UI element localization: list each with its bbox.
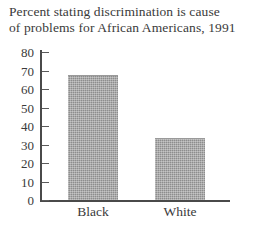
y-tick-label: 30 [21,138,34,151]
x-axis-line [40,200,230,202]
y-tick-mark [42,52,49,53]
y-tick-label: 70 [21,64,34,77]
bar [68,75,118,200]
y-tick-mark [42,126,49,127]
y-tick-mark [42,145,49,146]
chart-title: Percent stating discrimination is cause … [9,4,271,36]
y-tick-label: 20 [21,157,34,170]
y-tick-mark [42,108,49,109]
y-tick-mark [42,89,49,90]
y-tick-label: 80 [21,46,34,59]
y-tick-mark [42,163,49,164]
y-tick-mark [42,200,49,201]
bar-chart-figure: Percent stating discrimination is cause … [0,0,275,240]
x-tick-label: Black [77,204,109,220]
y-tick-mark [42,71,49,72]
y-tick-label: 0 [28,194,35,207]
y-tick-label: 10 [21,175,34,188]
y-tick-mark [42,182,49,183]
x-tick-label: White [164,204,197,220]
y-tick-label: 50 [21,101,34,114]
y-tick-label: 40 [21,120,34,133]
bar [155,138,205,200]
y-tick-label: 60 [21,83,34,96]
plot-area: 01020304050607080 BlackWhite [40,52,230,200]
